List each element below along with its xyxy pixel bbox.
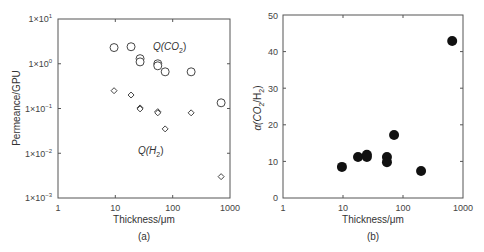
svg-text:0: 0 [273,193,278,203]
svg-text:20: 20 [268,120,278,130]
svg-text:1: 1 [55,203,60,213]
co2-data-point [161,68,169,76]
selectivity-data-point [362,152,372,162]
co2-data-point [127,43,135,51]
figure: 1×101 1×100 1×10−1 1×10−2 1×10−3 1 10 10… [0,0,484,252]
h2-data-point [162,126,168,132]
co2-data-point [217,99,225,107]
h2-data-point [188,110,194,116]
chart-b-x-ticks [343,15,403,198]
svg-text:100: 100 [165,203,180,213]
svg-text:1×10−3: 1×10−3 [25,192,53,203]
h2-data-point [218,174,224,180]
co2-data-point [187,68,195,76]
chart-b: 0 10 20 30 40 50 1 10 100 1000 Thickness… [252,11,473,243]
svg-text:100: 100 [395,203,410,213]
svg-text:1: 1 [280,203,285,213]
chart-a-y-ticks [58,64,230,154]
chart-b-x-tick-labels: 1 10 100 1000 [280,203,473,213]
selectivity-data-point [447,36,457,46]
selectivity-data-point [416,166,426,176]
chart-b-x-axis-label: Thickness/μm [342,214,404,225]
chart-a-y-axis-label: Permeance/GPU [11,70,22,146]
chart-b-y-axis-label: α(CO2/H2) [252,85,265,130]
chart-a-plot-frame [58,19,230,198]
svg-text:30: 30 [268,84,278,94]
co2-data-point [110,44,118,52]
selectivity-data-point [353,152,363,162]
selectivity-data-point [389,130,399,140]
svg-text:10: 10 [338,203,348,213]
chart-b-caption: (b) [367,231,379,242]
annotation-q-h2: Q(H2) [138,145,164,158]
svg-text:1000: 1000 [453,203,473,213]
svg-text:50: 50 [268,11,278,21]
svg-text:10: 10 [110,203,120,213]
svg-text:1000: 1000 [220,203,240,213]
annotation-q-co2: Q(CO2) [153,41,186,54]
chart-a-caption: (a) [138,231,150,242]
selectivity-data-point [337,162,347,172]
chart-b-y-tick-labels: 0 10 20 30 40 50 [268,11,278,204]
svg-text:1×101: 1×101 [28,13,52,24]
chart-a: 1×101 1×100 1×10−1 1×10−2 1×10−3 1 10 10… [11,13,240,242]
chart-b-markers [337,36,457,176]
selectivity-data-point [382,157,392,167]
chart-a-x-axis-label: Thickness/μm [113,214,175,225]
h2-data-point [111,88,117,94]
chart-b-plot-frame [283,15,463,198]
chart-b-y-ticks [283,52,463,162]
svg-text:1×100: 1×100 [28,58,52,69]
co2-data-point [154,62,162,70]
chart-a-markers [110,43,225,180]
svg-text:10: 10 [268,157,278,167]
co2-data-point [136,58,144,66]
chart-a-y-tick-labels: 1×101 1×100 1×10−1 1×10−2 1×10−3 [25,13,53,203]
svg-text:1×10−1: 1×10−1 [25,103,53,114]
chart-a-x-tick-labels: 1 10 100 1000 [55,203,240,213]
svg-text:40: 40 [268,47,278,57]
svg-text:1×10−2: 1×10−2 [25,148,53,159]
h2-data-point [128,92,134,98]
